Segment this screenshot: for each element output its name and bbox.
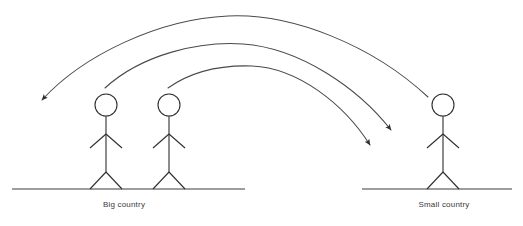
figure-arm-right [169, 134, 185, 148]
figure-small-1 [427, 94, 459, 189]
big-country-group: Big country [12, 94, 245, 209]
figure-leg-right [106, 172, 122, 189]
figure-leg-left [90, 172, 106, 189]
figure-leg-left [153, 172, 169, 189]
figure-arm-right [443, 134, 459, 148]
figure-leg-right [443, 172, 459, 189]
figure-arm-right [106, 134, 122, 148]
figure-head-icon [432, 94, 454, 116]
figure-big-1 [90, 94, 122, 189]
arrow-inner-left-to-right [168, 66, 370, 145]
arrow-outer-right-to-left [42, 16, 428, 100]
figure-head-icon [158, 94, 180, 116]
small-country-group: Small country [362, 94, 512, 209]
figure-arm-left [427, 134, 443, 148]
figure-leg-right [169, 172, 185, 189]
diagram-svg: Big country Small country [0, 0, 523, 226]
diagram-canvas: Big country Small country [0, 0, 523, 226]
arrow-layer [42, 16, 428, 145]
figure-big-2 [153, 94, 185, 189]
figure-head-icon [95, 94, 117, 116]
label-small-country: Small country [418, 200, 469, 209]
label-big-country: Big country [103, 200, 145, 209]
figure-arm-left [90, 134, 106, 148]
figure-arm-left [153, 134, 169, 148]
figure-leg-left [427, 172, 443, 189]
